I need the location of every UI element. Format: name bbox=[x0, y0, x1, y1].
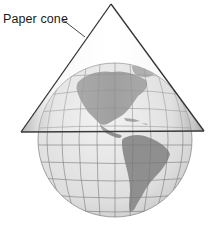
conic-projection-diagram: Paper cone bbox=[0, 0, 213, 236]
paper-cone-label: Paper cone bbox=[3, 12, 68, 26]
diagram-svg bbox=[0, 0, 213, 236]
